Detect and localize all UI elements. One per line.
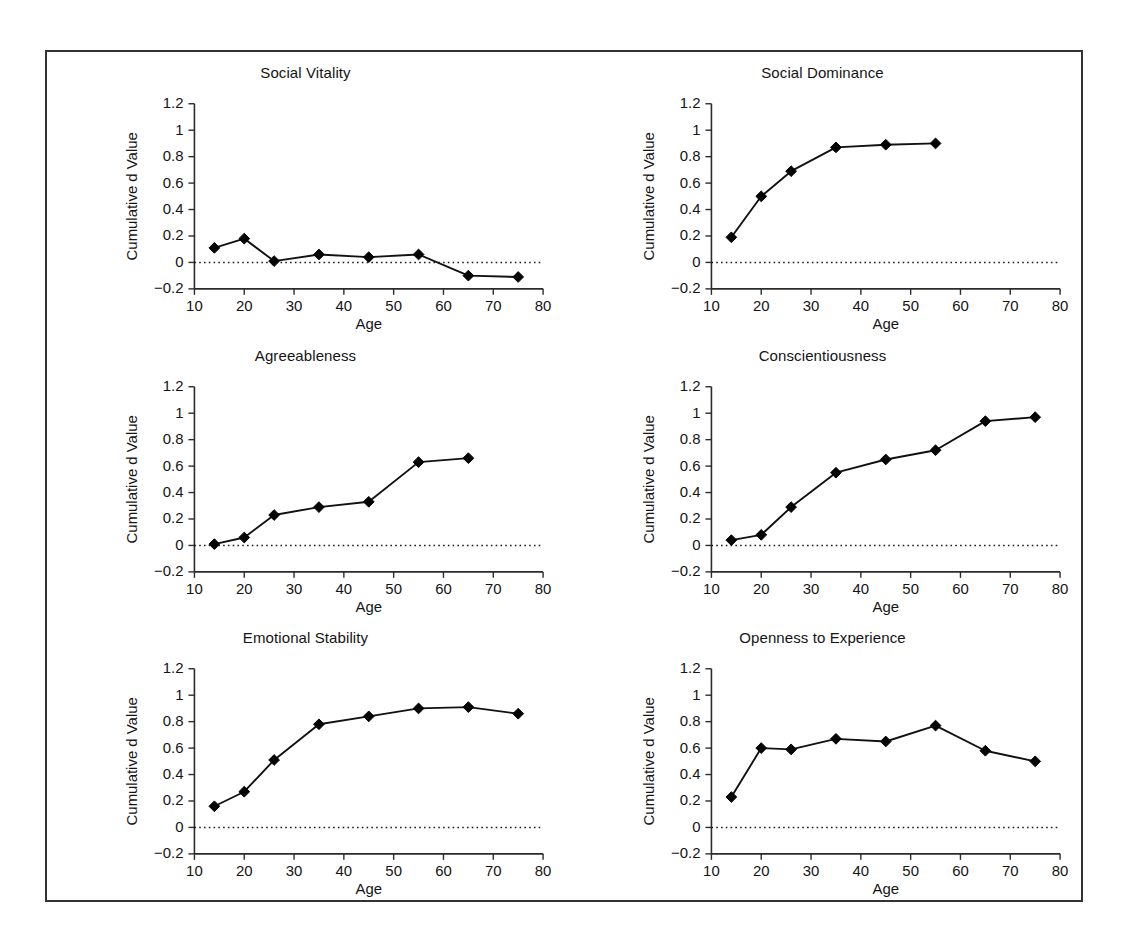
data-point-marker (1030, 756, 1041, 767)
y-tick-label: 1.2 (680, 377, 701, 394)
series-line (731, 417, 1035, 540)
y-tick-label: −0.2 (154, 279, 183, 296)
chart-panel: Agreeableness−0.200.20.40.60.811.2102030… (47, 335, 564, 618)
data-point-marker (980, 746, 991, 757)
x-axis-title: Age (355, 880, 382, 897)
x-tick-label: 60 (952, 297, 969, 314)
x-tick-label: 10 (703, 297, 720, 314)
y-tick-label: −0.2 (154, 845, 183, 862)
data-point-marker (1030, 411, 1041, 422)
y-tick-label: 1 (175, 121, 183, 138)
chart-panel: Social Vitality−0.200.20.40.60.811.21020… (47, 52, 564, 335)
data-point-marker (314, 501, 325, 512)
plot-area: −0.200.20.40.60.811.21020304050607080Age… (47, 335, 564, 618)
y-tick-label: 0.6 (680, 739, 701, 756)
data-point-marker (463, 452, 474, 463)
x-tick-label: 20 (753, 297, 770, 314)
x-tick-label: 70 (1002, 580, 1019, 597)
x-tick-label: 60 (435, 297, 452, 314)
y-tick-label: 0.2 (163, 509, 184, 526)
y-axis-title: Cumulative d Value (640, 132, 657, 260)
data-point-marker (209, 243, 220, 254)
data-point-marker (363, 252, 374, 263)
x-tick-label: 50 (902, 580, 919, 597)
series-line (214, 707, 518, 806)
x-tick-label: 10 (186, 862, 203, 879)
y-tick-label: 0.4 (680, 765, 701, 782)
chart-panel: Social Dominance−0.200.20.40.60.811.2102… (564, 52, 1081, 335)
x-tick-label: 30 (803, 297, 820, 314)
y-tick-label: −0.2 (154, 562, 183, 579)
x-tick-label: 30 (286, 297, 303, 314)
x-tick-label: 50 (385, 580, 402, 597)
y-tick-label: 0.6 (680, 456, 701, 473)
data-point-marker (930, 445, 941, 456)
data-point-marker (831, 734, 842, 745)
chart-panel: Emotional Stability−0.200.20.40.60.811.2… (47, 617, 564, 900)
data-point-marker (413, 249, 424, 260)
y-tick-label: 1 (175, 686, 183, 703)
y-tick-label: 1.2 (163, 377, 184, 394)
x-tick-label: 30 (286, 580, 303, 597)
y-tick-label: 1.2 (163, 660, 184, 677)
x-tick-label: 40 (853, 297, 870, 314)
plot-area: −0.200.20.40.60.811.21020304050607080Age… (564, 335, 1081, 618)
data-point-marker (831, 142, 842, 153)
y-tick-label: 0.6 (163, 739, 184, 756)
x-tick-label: 80 (535, 297, 552, 314)
data-point-marker (930, 721, 941, 732)
y-tick-label: 0 (692, 818, 700, 835)
y-tick-label: −0.2 (671, 562, 700, 579)
y-tick-label: 0.2 (680, 509, 701, 526)
y-tick-label: −0.2 (671, 279, 700, 296)
x-tick-label: 50 (385, 297, 402, 314)
panel-grid: Social Vitality−0.200.20.40.60.811.21020… (47, 52, 1081, 900)
x-axis-title: Age (872, 597, 899, 614)
y-tick-label: 0 (175, 536, 183, 553)
data-point-marker (980, 415, 991, 426)
y-tick-label: 0.8 (680, 430, 701, 447)
y-tick-label: 1.2 (163, 94, 184, 111)
data-point-marker (463, 270, 474, 281)
x-tick-label: 50 (385, 862, 402, 879)
chart-panel: Conscientiousness−0.200.20.40.60.811.210… (564, 335, 1081, 618)
x-tick-label: 20 (753, 580, 770, 597)
y-axis-title: Cumulative d Value (640, 415, 657, 543)
x-axis-title: Age (872, 880, 899, 897)
x-tick-label: 40 (336, 297, 353, 314)
y-tick-label: 0.8 (680, 147, 701, 164)
y-axis-title: Cumulative d Value (123, 132, 140, 260)
x-tick-label: 60 (435, 580, 452, 597)
y-tick-label: 1 (692, 403, 700, 420)
data-point-marker (413, 703, 424, 714)
plot-area: −0.200.20.40.60.811.21020304050607080Age… (47, 52, 564, 335)
data-point-marker (930, 138, 941, 149)
data-point-marker (209, 538, 220, 549)
y-tick-label: 0.2 (680, 792, 701, 809)
x-tick-label: 10 (703, 862, 720, 879)
chart-panel: Openness to Experience−0.200.20.40.60.81… (564, 617, 1081, 900)
y-tick-label: 1.2 (680, 94, 701, 111)
y-tick-label: 0.6 (680, 174, 701, 191)
y-tick-label: 0.2 (680, 226, 701, 243)
data-point-marker (363, 711, 374, 722)
x-axis-title: Age (872, 315, 899, 332)
plot-area: −0.200.20.40.60.811.21020304050607080Age… (564, 52, 1081, 335)
x-tick-label: 60 (952, 580, 969, 597)
x-tick-label: 80 (1052, 297, 1069, 314)
x-tick-label: 10 (703, 580, 720, 597)
x-tick-label: 80 (535, 862, 552, 879)
x-tick-label: 20 (236, 862, 253, 879)
y-tick-label: 0.8 (163, 147, 184, 164)
x-tick-label: 20 (236, 297, 253, 314)
data-point-marker (726, 534, 737, 545)
x-tick-label: 80 (1052, 580, 1069, 597)
data-point-marker (880, 736, 891, 747)
data-point-marker (209, 801, 220, 812)
data-point-marker (513, 272, 524, 283)
y-tick-label: 1 (692, 686, 700, 703)
y-tick-label: 0 (175, 253, 183, 270)
y-tick-label: 0.4 (680, 200, 701, 217)
y-tick-label: 1 (175, 403, 183, 420)
y-tick-label: −0.2 (671, 845, 700, 862)
